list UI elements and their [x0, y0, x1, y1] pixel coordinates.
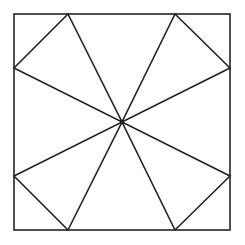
top-right-triangle: [122, 14, 230, 122]
square-with-triangles-figure: [0, 0, 245, 245]
bottom-right-triangle: [122, 122, 230, 230]
diagram-canvas: [0, 0, 245, 245]
center-point: [121, 121, 124, 124]
top-left-triangle: [14, 14, 122, 122]
bottom-left-triangle: [14, 122, 122, 230]
